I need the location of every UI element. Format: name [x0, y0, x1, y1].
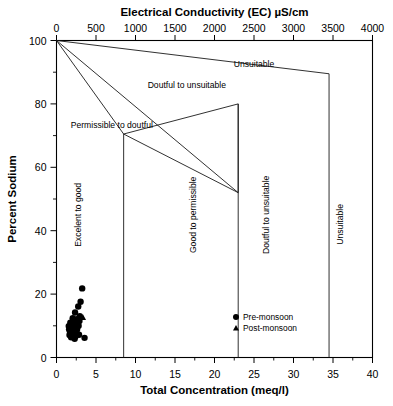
- chart-canvas: 0510152025303540Total Concentration (meq…: [0, 0, 393, 406]
- legend-marker-circle: [233, 314, 239, 320]
- zone-unsuitable-upper: Unsuitable: [234, 59, 275, 69]
- wilcox-diagram-figure: 0510152025303540Total Concentration (meq…: [0, 0, 393, 406]
- x-axis-title: Total Concentration (meq/l): [140, 384, 289, 396]
- zone-permissible-to-doutful: Permissible to doutful: [71, 120, 153, 130]
- data-point: [79, 285, 85, 291]
- xtick-label-30: 30: [288, 368, 300, 380]
- x2tick-label-3500: 3500: [321, 22, 345, 34]
- ytick-label-80: 80: [35, 98, 47, 110]
- legend-label-pre-monsoon: Pre-monsoon: [243, 312, 294, 322]
- xtick-label-35: 35: [327, 368, 339, 380]
- y-axis-title: Percent Sodium: [6, 155, 18, 243]
- ytick-label-20: 20: [35, 288, 47, 300]
- x2tick-label-3000: 3000: [282, 22, 306, 34]
- x2tick-label-2000: 2000: [203, 22, 227, 34]
- x2tick-label-1500: 1500: [163, 22, 187, 34]
- ytick-label-0: 0: [41, 352, 47, 364]
- x2tick-label-1000: 1000: [124, 22, 148, 34]
- xtick-label-25: 25: [248, 368, 260, 380]
- zone-doutful-to-unsuitable-upper: Doutful to unsuitable: [148, 80, 227, 90]
- xtick-label-20: 20: [209, 368, 221, 380]
- xtick-label-15: 15: [169, 368, 181, 380]
- zone-unsuitable-side: Unsuitable: [335, 204, 345, 245]
- xtick-label-5: 5: [93, 368, 99, 380]
- legend-label-post-monsoon: Post-monsoon: [243, 323, 297, 333]
- ytick-label-60: 60: [35, 161, 47, 173]
- x2tick-label-4000: 4000: [361, 22, 385, 34]
- ytick-label-40: 40: [35, 225, 47, 237]
- zone-good-to-permissible: Good to permissible: [188, 176, 198, 253]
- zone-doutful-to-unsuitable-side: Doutful to unsuitable: [261, 175, 271, 254]
- x2-axis-title: Electrical Conductivity (EC) µS/cm: [120, 6, 308, 18]
- xtick-label-10: 10: [130, 368, 142, 380]
- ytick-label-100: 100: [29, 35, 47, 47]
- boundary-doutful-to-unsuitable-diagonal: [57, 41, 330, 74]
- data-point: [81, 335, 87, 341]
- boundary-good-to-permissible-diagonal: [57, 41, 239, 193]
- zone-excelent-to-good: Excelent to good: [73, 183, 83, 247]
- x2tick-label-500: 500: [87, 22, 105, 34]
- data-point: [75, 303, 81, 309]
- x2tick-label-0: 0: [54, 22, 60, 34]
- xtick-label-40: 40: [367, 368, 379, 380]
- x2tick-label-2500: 2500: [242, 22, 266, 34]
- xtick-label-0: 0: [54, 368, 60, 380]
- boundary-permissible-to-doutful-diagonal: [124, 134, 239, 193]
